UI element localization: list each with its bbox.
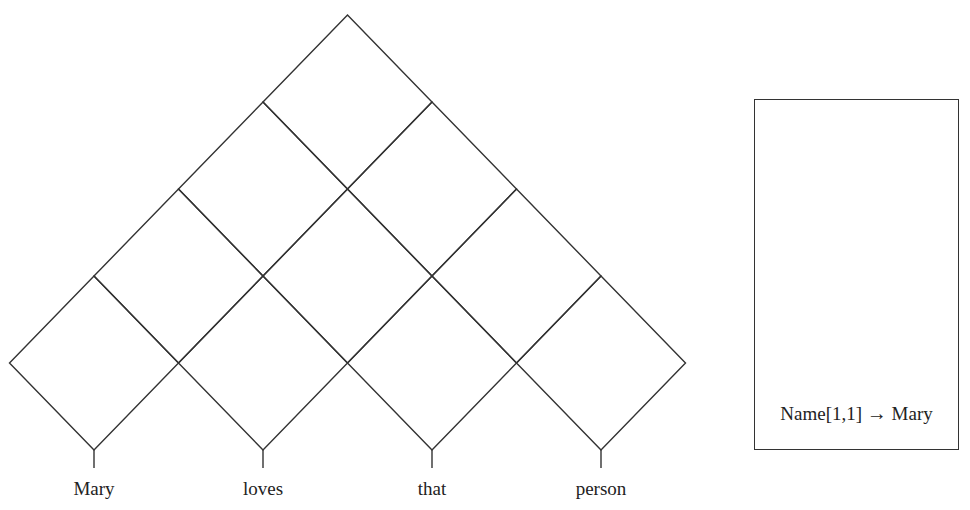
- chart-cell: [517, 276, 686, 450]
- rule-box: Name[1,1] → Mary: [754, 99, 959, 450]
- chart-cell: [348, 102, 517, 276]
- chart-cell: [348, 276, 517, 450]
- rule-text: Name[1,1] → Mary: [755, 402, 958, 425]
- parse-chart-diagram: Mary loves that person Name[1,1] → Mary: [0, 0, 970, 510]
- rule-lhs: Name[1,1]: [780, 403, 862, 424]
- chart-cell: [432, 189, 601, 363]
- chart-cell: [179, 276, 348, 450]
- rule-rhs: Mary: [892, 403, 933, 424]
- word-loves: loves: [203, 478, 323, 500]
- word-that: that: [372, 478, 492, 500]
- word-person: person: [541, 478, 661, 500]
- word-mary: Mary: [34, 478, 154, 500]
- chart-cell: [94, 189, 263, 363]
- chart-cell: [263, 189, 432, 363]
- arrow-icon: →: [867, 402, 887, 424]
- chart-cell: [263, 15, 432, 189]
- chart-cell: [179, 102, 348, 276]
- chart-cell: [10, 276, 179, 450]
